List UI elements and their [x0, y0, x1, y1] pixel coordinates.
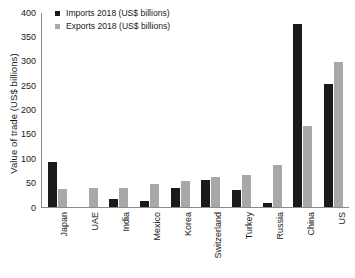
- y-tick-label: 100: [6, 155, 36, 164]
- bar-exports-japan: [58, 189, 67, 207]
- x-tick-label-mexico: Mexico: [153, 212, 162, 241]
- x-tick-label-india: India: [122, 212, 131, 232]
- x-tick-label-russia: Russia: [276, 212, 285, 240]
- x-tick-group: India: [103, 210, 134, 278]
- bar-group: [226, 13, 257, 207]
- bar-imports-japan: [48, 162, 57, 207]
- bar-imports-turkey: [232, 190, 241, 207]
- bar-imports-mexico: [140, 201, 149, 207]
- bar-group: [103, 13, 134, 207]
- bar-group: [318, 13, 349, 207]
- bar-exports-turkey: [242, 175, 251, 207]
- bars-layer: [42, 13, 349, 207]
- x-tick-group: Japan: [41, 210, 72, 278]
- plot-area: [41, 13, 349, 208]
- y-tick-label: 300: [6, 57, 36, 66]
- x-tick-group: China: [287, 210, 318, 278]
- bar-group: [134, 13, 165, 207]
- x-tick-group: Korea: [164, 210, 195, 278]
- x-tick-group: US: [318, 210, 349, 278]
- bar-group: [42, 13, 73, 207]
- x-tick-group: Switzerland: [195, 210, 226, 278]
- legend-entry: Imports 2018 (US$ billions): [55, 9, 170, 18]
- y-tick-label: 250: [6, 82, 36, 91]
- x-tick-label-uae: UAE: [91, 212, 100, 231]
- bar-imports-switzerland: [201, 180, 210, 207]
- legend-swatch-icon: [55, 11, 60, 16]
- y-axis-tick-labels: 400350300250200150100500: [6, 0, 36, 278]
- bar-exports-mexico: [150, 184, 159, 207]
- x-tick-group: Turkey: [226, 210, 257, 278]
- x-tick-label-us: US: [338, 212, 347, 225]
- bar-exports-russia: [273, 165, 282, 207]
- bar-group: [257, 13, 288, 207]
- x-tick-label-turkey: Turkey: [245, 212, 254, 239]
- x-tick-label-switzerland: Switzerland: [214, 212, 223, 259]
- legend-swatch-icon: [55, 24, 60, 29]
- x-tick-label-japan: Japan: [60, 212, 69, 237]
- y-tick-label: 200: [6, 106, 36, 115]
- bar-exports-india: [119, 188, 128, 208]
- y-tick-label: 0: [6, 204, 36, 213]
- legend-label: Imports 2018 (US$ billions): [66, 9, 170, 18]
- bar-exports-uae: [89, 188, 98, 207]
- bar-imports-china: [293, 24, 302, 207]
- x-tick-group: UAE: [72, 210, 103, 278]
- bar-imports-us: [324, 84, 333, 207]
- bar-imports-korea: [171, 188, 180, 208]
- y-tick-label: 400: [6, 9, 36, 18]
- chart-legend: Imports 2018 (US$ billions)Exports 2018 …: [55, 9, 170, 31]
- bar-exports-us: [334, 62, 343, 207]
- bar-exports-korea: [181, 181, 190, 207]
- x-tick-group: Russia: [257, 210, 288, 278]
- bar-group: [196, 13, 227, 207]
- y-tick-label: 350: [6, 33, 36, 42]
- x-tick-group: Mexico: [133, 210, 164, 278]
- bar-imports-russia: [263, 203, 272, 207]
- bar-exports-switzerland: [211, 177, 220, 207]
- legend-entry: Exports 2018 (US$ billions): [55, 22, 170, 31]
- bar-chart: Value of trade (US$ billions) 4003503002…: [0, 0, 355, 278]
- x-tick-label-korea: Korea: [184, 212, 193, 236]
- bar-exports-china: [303, 126, 312, 207]
- bar-group: [165, 13, 196, 207]
- bar-imports-india: [109, 199, 118, 207]
- x-tick-label-china: China: [307, 212, 316, 236]
- bar-group: [73, 13, 104, 207]
- y-tick-label: 50: [6, 179, 36, 188]
- legend-label: Exports 2018 (US$ billions): [66, 22, 170, 31]
- x-axis-tick-labels: JapanUAEIndiaMexicoKoreaSwitzerlandTurke…: [41, 210, 349, 278]
- bar-group: [288, 13, 319, 207]
- y-tick-label: 150: [6, 130, 36, 139]
